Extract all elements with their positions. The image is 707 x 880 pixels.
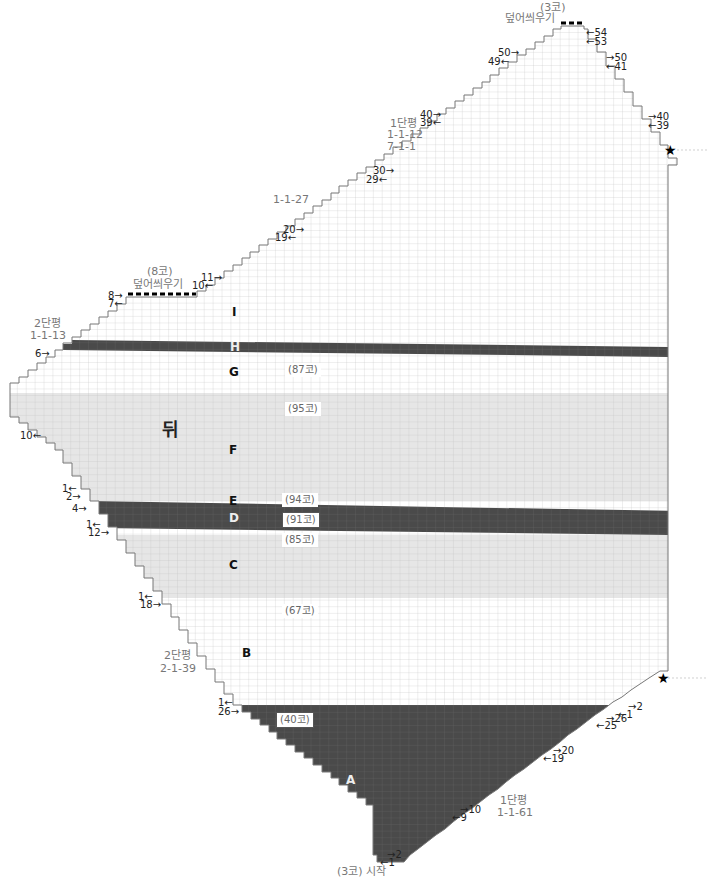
- row-marker: 26→: [218, 707, 239, 717]
- row-marker: ←53: [586, 37, 607, 47]
- row-marker: 4→: [72, 504, 87, 514]
- row-marker: 2→: [66, 492, 81, 502]
- start-label: (3코) 시작: [337, 866, 386, 877]
- star-icon-top: ★: [664, 142, 677, 158]
- row-marker: ←9: [452, 813, 467, 823]
- section-D: D: [229, 511, 239, 525]
- stitch-count-85: (85코): [282, 533, 318, 547]
- note-left-lower-1: 2단평: [164, 650, 191, 661]
- row-marker: 39←: [420, 118, 441, 128]
- section-I: I: [232, 305, 236, 319]
- section-H: H: [230, 340, 240, 354]
- row-marker: ←39: [648, 121, 669, 131]
- stitch-count-67: (67코): [282, 604, 318, 618]
- note-left-lower-2: 2-1-39: [160, 663, 196, 674]
- knitting-chart: [0, 0, 707, 880]
- section-F: F: [229, 443, 237, 457]
- bind-off-left-label: 덮어씌우기: [133, 279, 183, 290]
- note-right-bottom-1: 1단평: [500, 795, 527, 806]
- row-marker: ←19: [543, 754, 564, 764]
- row-marker: 18→: [140, 600, 161, 610]
- note-top-left: 1-1-27: [273, 194, 309, 205]
- row-marker: 49←: [488, 57, 509, 67]
- section-C: C: [229, 558, 238, 572]
- section-A: A: [346, 773, 355, 787]
- band-A: [230, 705, 630, 865]
- note-top-right-3: 7-1-1: [387, 141, 416, 152]
- piece-title: 뒤: [162, 415, 179, 441]
- section-G: G: [229, 365, 239, 379]
- section-E: E: [229, 494, 237, 508]
- row-marker: 7←: [108, 299, 123, 309]
- bind-off-top-label: 덮어씌우기: [505, 13, 555, 24]
- row-marker: ←1: [380, 858, 395, 868]
- note-left-upper-1: 2단평: [34, 318, 61, 329]
- row-marker: ←41: [606, 62, 627, 72]
- note-top-right-2: 1-1-12: [387, 129, 423, 140]
- note-right-bottom-2: 1-1-61: [497, 807, 533, 818]
- stitch-count-91: (91코): [282, 512, 320, 528]
- stitch-count-87: (87코): [285, 363, 321, 377]
- star-icon-bottom: ★: [657, 670, 670, 686]
- chart-body: [0, 0, 707, 880]
- row-marker: 6→: [35, 349, 50, 359]
- bind-off-left-count: (8코): [147, 266, 173, 277]
- row-marker: 12→: [88, 528, 109, 538]
- stitch-count-40: (40코): [276, 712, 314, 728]
- row-marker: ←25: [596, 721, 617, 731]
- stitch-count-94: (94코): [282, 493, 318, 507]
- row-marker: 10←: [192, 281, 213, 291]
- row-marker: 29←: [366, 175, 387, 185]
- section-B: B: [242, 646, 251, 660]
- stitch-count-95: (95코): [285, 402, 321, 416]
- note-left-upper-2: 1-1-13: [30, 330, 66, 341]
- row-marker: 10←: [20, 431, 41, 441]
- row-marker: 19←: [275, 233, 296, 243]
